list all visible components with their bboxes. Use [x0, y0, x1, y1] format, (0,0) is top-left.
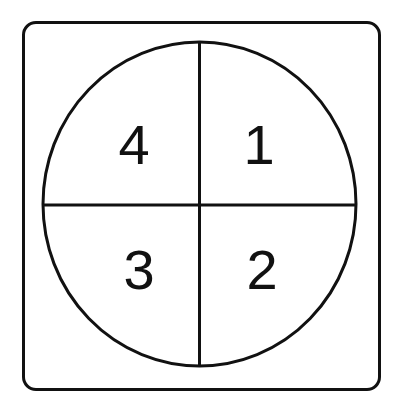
quadrant-circle	[0, 0, 397, 414]
quadrant-label-top-right: 1	[229, 117, 289, 173]
quadrant-label-top-left: 4	[104, 117, 164, 173]
quadrant-label-bottom-right: 2	[232, 242, 292, 298]
quadrant-label-bottom-left: 3	[109, 242, 169, 298]
